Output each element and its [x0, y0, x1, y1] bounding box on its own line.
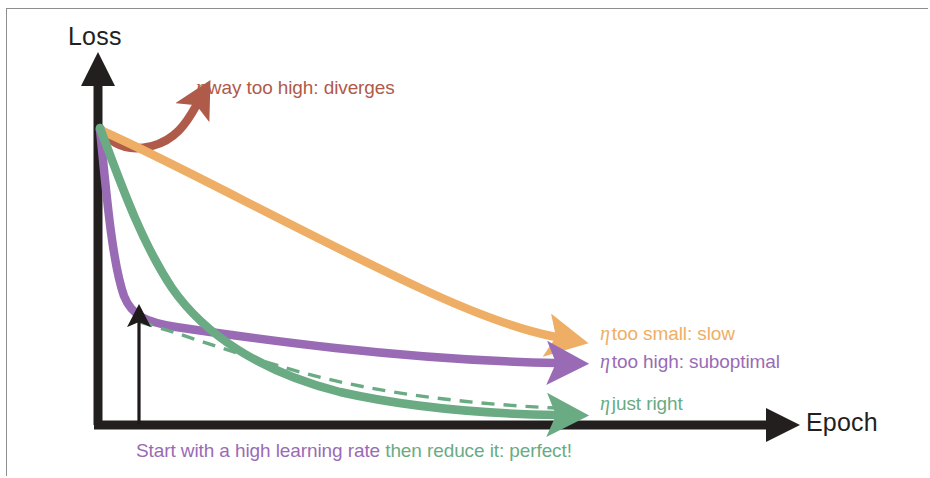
series-label-diverges-text: way too high: diverges — [208, 77, 395, 98]
series-label-too-small-text: too small: slow — [612, 323, 735, 344]
y-axis-title: Loss — [68, 22, 122, 51]
eta-symbol: η — [600, 350, 612, 372]
eta-symbol: η — [600, 392, 612, 414]
series-diverges — [100, 106, 196, 148]
series-label-diverges: ηway too high: diverges — [196, 76, 395, 99]
series-label-just-right-text: just right — [612, 393, 683, 414]
x-axis-arrowhead-icon — [766, 408, 800, 442]
series-label-too-small: ηtoo small: slow — [600, 322, 735, 345]
series-label-too-high-text: too high: suboptimal — [612, 351, 780, 372]
caption-part-reduce-rate: then reduce it: perfect! — [385, 440, 572, 461]
caption-part-high-rate: Start with a high learning rate — [136, 440, 385, 461]
series-label-just-right: ηjust right — [600, 392, 683, 415]
learning-rate-loss-curve-chart — [0, 0, 930, 478]
x-axis-title: Epoch — [806, 408, 878, 437]
diverges-curve — [100, 106, 196, 148]
eta-symbol: η — [196, 76, 208, 98]
eta-symbol: η — [600, 322, 612, 344]
figure-root: Loss Epoch ηway too high: diverges ηtoo … — [0, 0, 930, 478]
y-axis-arrowhead-icon — [81, 52, 115, 86]
figure-caption: Start with a high learning rate then red… — [136, 440, 572, 462]
series-label-too-high: ηtoo high: suboptimal — [600, 350, 780, 373]
too-small-curve — [100, 130, 556, 337]
just-right-curve — [100, 128, 556, 415]
series-just-right — [100, 128, 556, 415]
series-too-small — [100, 130, 556, 337]
